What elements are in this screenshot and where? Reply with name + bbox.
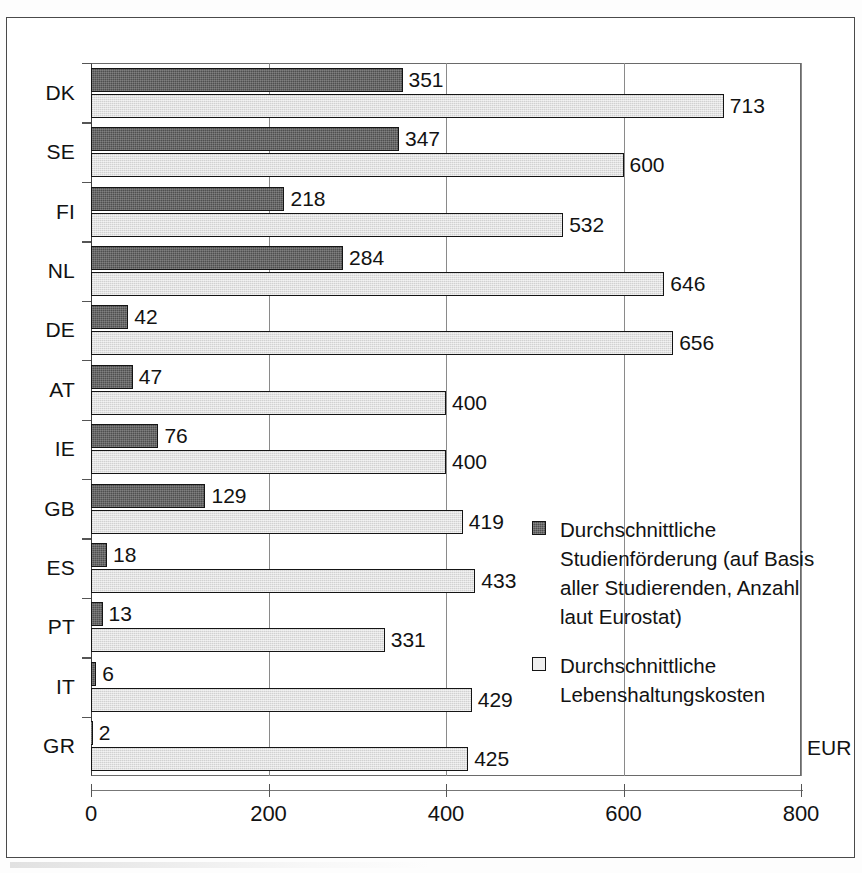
category-tick <box>82 717 91 718</box>
x-tick-label-400: 400 <box>428 801 465 827</box>
bar-value-label: 433 <box>481 569 516 593</box>
bar-foerderung-es: 18 <box>91 543 107 567</box>
bar-foerderung-ie: 76 <box>91 424 158 448</box>
bar-row: IE76400 <box>91 420 801 479</box>
legend-swatch-light-icon <box>532 657 546 671</box>
category-label-it: IT <box>56 675 75 699</box>
bar-value-label: 532 <box>569 213 604 237</box>
bar-foerderung-nl: 284 <box>91 246 343 270</box>
bar-foerderung-dk: 351 <box>91 68 403 92</box>
chart-outer-frame: DK351713SE347600FI218532NL284646DE42656A… <box>6 17 855 858</box>
category-label-gb: GB <box>44 497 75 521</box>
bar-value-label: 400 <box>452 391 487 415</box>
category-label-gr: GR <box>43 734 75 758</box>
bar-foerderung-se: 347 <box>91 127 399 151</box>
category-label-fi: FI <box>56 200 75 224</box>
bar-value-label: 18 <box>113 543 136 567</box>
bar-kosten-se: 600 <box>91 153 624 177</box>
scan-artifact <box>10 862 430 868</box>
category-tick <box>82 63 91 64</box>
category-tick <box>82 360 91 361</box>
bar-value-label: 419 <box>469 510 504 534</box>
bar-value-label: 331 <box>391 628 426 652</box>
bar-foerderung-de: 42 <box>91 305 128 329</box>
x-tick-label-800: 800 <box>783 801 820 827</box>
category-tick <box>82 479 91 480</box>
legend-label-foerderung: Durchschnittliche Studienförderung (auf … <box>560 518 814 628</box>
bar-row: AT47400 <box>91 360 801 419</box>
bar-kosten-gb: 419 <box>91 510 463 534</box>
bar-value-label: 351 <box>409 68 444 92</box>
category-label-at: AT <box>49 378 75 402</box>
bar-row: DK351713 <box>91 63 801 122</box>
bar-value-label: 425 <box>474 747 509 771</box>
legend-entry-foerderung: Durchschnittliche Studienförderung (auf … <box>532 515 832 631</box>
category-label-de: DE <box>45 318 75 342</box>
bar-foerderung-at: 47 <box>91 365 133 389</box>
bar-kosten-dk: 713 <box>91 94 724 118</box>
bar-value-label: 646 <box>670 272 705 296</box>
bar-row: SE347600 <box>91 122 801 181</box>
category-label-se: SE <box>47 140 75 164</box>
bar-value-label: 218 <box>290 187 325 211</box>
x-tick-mark-400 <box>446 784 447 797</box>
bar-kosten-pt: 331 <box>91 628 385 652</box>
category-tick <box>82 657 91 658</box>
bar-foerderung-it: 6 <box>91 662 96 686</box>
category-tick <box>82 538 91 539</box>
category-label-pt: PT <box>48 615 75 639</box>
bar-value-label: 6 <box>102 662 114 686</box>
bar-value-label: 600 <box>630 153 665 177</box>
category-tick <box>82 182 91 183</box>
bar-value-label: 347 <box>405 127 440 151</box>
bar-value-label: 400 <box>452 450 487 474</box>
bar-row: FI218532 <box>91 182 801 241</box>
category-label-nl: NL <box>48 259 75 283</box>
x-tick-mark-0 <box>91 784 92 797</box>
bar-kosten-ie: 400 <box>91 450 446 474</box>
bar-kosten-nl: 646 <box>91 272 664 296</box>
bar-value-label: 713 <box>730 94 765 118</box>
bar-value-label: 656 <box>679 331 714 355</box>
bar-foerderung-fi: 218 <box>91 187 284 211</box>
bar-foerderung-gb: 129 <box>91 484 205 508</box>
x-tick-label-0: 0 <box>85 801 97 827</box>
category-tick <box>82 598 91 599</box>
x-tick-label-200: 200 <box>250 801 287 827</box>
bar-kosten-fi: 532 <box>91 213 563 237</box>
category-tick <box>82 241 91 242</box>
x-tick-mark-800 <box>801 784 802 797</box>
category-label-ie: IE <box>55 437 75 461</box>
category-tick <box>82 420 91 421</box>
legend-entry-lebenshaltungskosten: Durchschnittliche Lebenshaltungskosten <box>532 651 832 709</box>
legend-label-lebenshaltungskosten: Durchschnittliche Lebenshaltungskosten <box>560 654 765 706</box>
bar-row: NL284646 <box>91 241 801 300</box>
bar-value-label: 13 <box>109 602 132 626</box>
chart-legend: Durchschnittliche Studienförderung (auf … <box>532 515 832 729</box>
category-tick <box>82 301 91 302</box>
bar-foerderung-gr: 2 <box>91 721 93 745</box>
legend-swatch-dark-icon <box>532 521 546 535</box>
bar-kosten-gr: 425 <box>91 747 468 771</box>
bar-value-label: 284 <box>349 246 384 270</box>
bar-row: DE42656 <box>91 301 801 360</box>
bar-kosten-de: 656 <box>91 331 673 355</box>
x-tick-mark-600 <box>624 784 625 797</box>
chart-screenshot: DK351713SE347600FI218532NL284646DE42656A… <box>0 0 862 873</box>
bar-value-label: 42 <box>134 305 157 329</box>
category-label-es: ES <box>47 556 75 580</box>
bar-kosten-it: 429 <box>91 688 472 712</box>
bar-kosten-at: 400 <box>91 391 446 415</box>
bar-value-label: 47 <box>139 365 162 389</box>
bar-foerderung-pt: 13 <box>91 602 103 626</box>
x-tick-label-600: 600 <box>605 801 642 827</box>
bar-value-label: 429 <box>478 688 513 712</box>
bar-kosten-es: 433 <box>91 569 475 593</box>
axis-unit-label: EUR <box>807 736 851 760</box>
bar-value-label: 2 <box>99 721 111 745</box>
category-tick <box>82 122 91 123</box>
bar-value-label: 76 <box>164 424 187 448</box>
bar-value-label: 129 <box>211 484 246 508</box>
category-label-dk: DK <box>45 81 75 105</box>
x-tick-mark-200 <box>269 784 270 797</box>
